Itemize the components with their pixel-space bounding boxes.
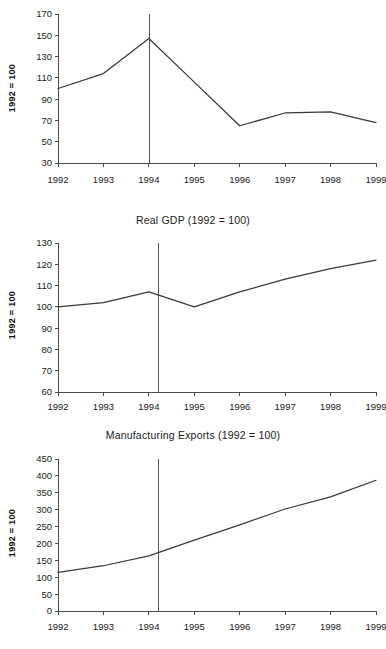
x-tick-label: 1993 bbox=[93, 621, 114, 632]
y-tick-label: 250 bbox=[36, 521, 52, 532]
chart-panel-2: Manufacturing Exports (1992 = 100) 1992 … bbox=[0, 427, 386, 649]
x-tick-label: 1996 bbox=[229, 401, 250, 412]
x-tick-label: 1996 bbox=[229, 174, 250, 185]
y-tick-label: 30 bbox=[41, 157, 52, 168]
data-series-line bbox=[58, 480, 376, 572]
y-tick-label: 50 bbox=[41, 136, 52, 147]
y-tick-label: 200 bbox=[36, 538, 52, 549]
x-tick-label: 1992 bbox=[47, 401, 68, 412]
x-tick-label: 1993 bbox=[93, 401, 114, 412]
y-tick-label: 60 bbox=[41, 386, 52, 397]
y-tick-label: 400 bbox=[36, 470, 52, 481]
x-tick-label: 1994 bbox=[138, 174, 159, 185]
y-tick-label: 110 bbox=[37, 280, 52, 291]
x-tick-label: 1994 bbox=[138, 621, 159, 632]
y-tick-label: 110 bbox=[37, 72, 52, 83]
x-tick-label: 1992 bbox=[47, 621, 68, 632]
y-tick-label: 350 bbox=[36, 487, 52, 498]
data-series-line bbox=[58, 38, 376, 125]
y-tick-label: 100 bbox=[36, 572, 52, 583]
x-tick-label: 1993 bbox=[93, 174, 114, 185]
y-tick-label: 130 bbox=[36, 237, 52, 248]
y-tick-label: 70 bbox=[41, 365, 52, 376]
y-tick-label: 90 bbox=[41, 323, 52, 334]
y-tick-label: 100 bbox=[36, 301, 52, 312]
x-tick-label: 1999 bbox=[365, 621, 386, 632]
y-tick-label: 0 bbox=[47, 605, 52, 616]
x-tick-label: 1999 bbox=[365, 174, 386, 185]
y-tick-label: 50 bbox=[41, 589, 52, 600]
y-tick-label: 170 bbox=[36, 8, 52, 19]
y-tick-label: 450 bbox=[36, 453, 52, 464]
plot-area-0: 3050709011013015017019921993199419951996… bbox=[0, 0, 386, 212]
y-tick-label: 80 bbox=[41, 344, 52, 355]
chart-panel-1: Real GDP (1992 = 100) 1992 = 100 6070809… bbox=[0, 212, 386, 427]
y-tick-label: 130 bbox=[36, 51, 52, 62]
x-tick-label: 1999 bbox=[365, 401, 386, 412]
three-panel-line-chart-figure: 1992 = 100 30507090110130150170199219931… bbox=[0, 0, 386, 649]
plot-area-2: 0501001502002503003504004501992199319941… bbox=[0, 427, 386, 649]
x-tick-label: 1998 bbox=[320, 621, 341, 632]
x-tick-label: 1995 bbox=[184, 621, 205, 632]
x-tick-label: 1994 bbox=[138, 401, 159, 412]
y-tick-label: 150 bbox=[36, 555, 52, 566]
x-tick-label: 1997 bbox=[275, 174, 296, 185]
x-tick-label: 1992 bbox=[47, 174, 68, 185]
data-series-line bbox=[58, 260, 376, 307]
x-tick-label: 1997 bbox=[275, 621, 296, 632]
y-tick-label: 150 bbox=[36, 30, 52, 41]
x-tick-label: 1995 bbox=[184, 401, 205, 412]
y-tick-label: 120 bbox=[36, 259, 52, 270]
x-tick-label: 1995 bbox=[184, 174, 205, 185]
plot-area-1: 6070809010011012013019921993199419951996… bbox=[0, 212, 386, 427]
x-tick-label: 1998 bbox=[320, 174, 341, 185]
x-tick-label: 1998 bbox=[320, 401, 341, 412]
chart-panel-0: 1992 = 100 30507090110130150170199219931… bbox=[0, 0, 386, 212]
x-tick-label: 1997 bbox=[275, 401, 296, 412]
y-tick-label: 90 bbox=[41, 94, 52, 105]
y-tick-label: 70 bbox=[41, 115, 52, 126]
y-tick-label: 300 bbox=[36, 504, 52, 515]
x-tick-label: 1996 bbox=[229, 621, 250, 632]
